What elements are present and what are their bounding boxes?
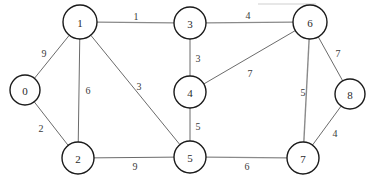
edge-weight-2-5: 9 — [133, 161, 138, 172]
edge-weight-6-8: 7 — [336, 48, 341, 59]
edge-2-5 — [94, 157, 174, 158]
graph-diagram: 92613345796574 012345678 — [0, 0, 373, 185]
edge-1-5 — [91, 35, 180, 144]
graph-node-7[interactable]: 7 — [287, 142, 319, 174]
edge-weight-0-1: 9 — [42, 48, 47, 59]
node-label-2: 2 — [75, 153, 81, 165]
graph-node-0[interactable]: 0 — [10, 75, 40, 105]
edge-weight-0-2: 2 — [39, 123, 44, 134]
edge-weight-3-6: 4 — [246, 10, 251, 21]
node-label-0: 0 — [22, 85, 28, 97]
graph-node-1[interactable]: 1 — [63, 5, 97, 39]
edge-weight-4-6: 7 — [248, 68, 253, 79]
node-label-4: 4 — [187, 87, 193, 99]
graph-node-4[interactable]: 4 — [174, 76, 206, 108]
node-label-8: 8 — [347, 89, 353, 101]
node-label-5: 5 — [187, 152, 193, 164]
graph-node-8[interactable]: 8 — [335, 79, 365, 109]
edge-weight-1-3: 1 — [134, 11, 139, 22]
graph-node-2[interactable]: 2 — [62, 142, 94, 174]
graph-node-3[interactable]: 3 — [174, 7, 206, 39]
edge-7-8 — [312, 106, 341, 145]
graph-canvas: 92613345796574 012345678 — [0, 0, 373, 185]
edge-weight-4-5: 5 — [196, 121, 201, 132]
edge-1-3 — [97, 22, 174, 23]
edge-6-8 — [318, 37, 342, 81]
graph-node-5[interactable]: 5 — [174, 141, 206, 173]
node-label-6: 6 — [307, 17, 313, 29]
node-layer: 012345678 — [10, 5, 365, 174]
edge-weight-7-8: 4 — [333, 128, 338, 139]
graph-node-6[interactable]: 6 — [293, 5, 327, 39]
edge-3-6 — [206, 22, 293, 23]
edge-0-1 — [34, 35, 69, 78]
node-label-1: 1 — [77, 17, 83, 29]
node-label-7: 7 — [300, 153, 306, 165]
edge-weight-6-7: 5 — [301, 87, 306, 98]
edge-1-2 — [78, 39, 80, 142]
edge-weight-1-5: 3 — [137, 81, 142, 92]
edge-5-7 — [206, 157, 287, 158]
edge-weight-5-7: 6 — [245, 161, 250, 172]
edge-weight-3-4: 3 — [196, 53, 201, 64]
node-label-3: 3 — [187, 18, 193, 30]
edge-weight-1-2: 6 — [86, 85, 91, 96]
